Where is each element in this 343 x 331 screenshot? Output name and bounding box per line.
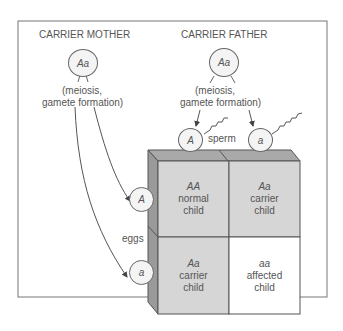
- cell-line2: child: [183, 282, 204, 294]
- sperm-a-circle: a: [248, 128, 273, 152]
- egg-A-circle: A: [129, 187, 154, 212]
- father-process-line2: gamete formation): [180, 97, 261, 108]
- grid-cell-AA: AA normal child: [158, 161, 229, 237]
- mother-process-line2: gamete formation): [42, 97, 123, 108]
- cell-line2: child: [254, 282, 275, 294]
- father-title: CARRIER FATHER: [181, 29, 268, 40]
- cell-genotype: aa: [259, 258, 270, 270]
- mother-title: CARRIER MOTHER: [39, 29, 130, 40]
- eggs-label: eggs: [122, 233, 144, 244]
- cell-line1: carrier: [179, 270, 207, 282]
- sperm-label: sperm: [208, 133, 236, 144]
- grid-cell-aa: aa affected child: [229, 237, 300, 314]
- cell-line2: child: [254, 205, 275, 217]
- cell-line1: normal: [178, 193, 209, 205]
- grid-cell-Aa-bottom: Aa carrier child: [158, 237, 229, 314]
- father-process-line1: (meiosis,: [195, 85, 235, 96]
- cell-line1: affected: [247, 270, 282, 282]
- cell-genotype: Aa: [187, 258, 199, 270]
- mother-genotype-circle: Aa: [68, 49, 98, 77]
- sperm-A-circle: A: [178, 128, 203, 152]
- cell-genotype: Aa: [258, 181, 270, 193]
- cell-genotype: AA: [187, 181, 200, 193]
- father-genotype-circle: Aa: [209, 48, 239, 77]
- cell-line1: carrier: [250, 193, 278, 205]
- mother-process-line1: (meiosis,: [62, 85, 102, 96]
- grid-cell-Aa-top: Aa carrier child: [229, 161, 300, 237]
- egg-a-circle: a: [129, 260, 154, 285]
- cell-line2: child: [183, 205, 204, 217]
